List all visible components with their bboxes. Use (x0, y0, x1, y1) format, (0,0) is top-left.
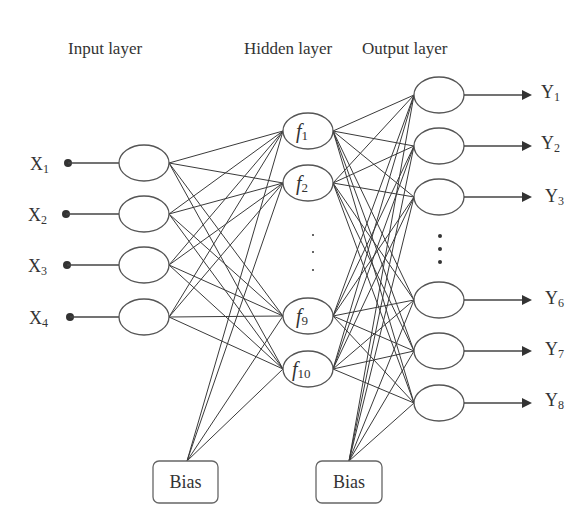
output-bias-node: Bias (316, 461, 382, 503)
output-label-2: Y2 (541, 133, 560, 155)
output-neuron-6 (414, 282, 464, 318)
hidden-bias-node: Bias (153, 461, 218, 503)
output-node-2: Y2 (414, 128, 560, 164)
output-node-3: Y3 (414, 179, 564, 215)
ellipsis-dot-icon (312, 251, 314, 253)
output-label-8: Y8 (545, 390, 564, 412)
output-neuron-8 (414, 385, 464, 421)
arrow-right-icon (522, 398, 532, 408)
input-neuron-4 (119, 299, 169, 335)
hidden-output-edges (333, 95, 414, 403)
hidden-layer: f1 f2 f9 f10 (283, 113, 333, 387)
input-node-3: X3 (28, 247, 169, 283)
input-node-2: X2 (28, 196, 169, 232)
input-node-1: X1 (30, 145, 169, 181)
ellipsis-dot-icon (438, 234, 442, 238)
output-node-1: Y1 (414, 77, 560, 113)
output-layer-title: Output layer (362, 39, 448, 58)
input-neuron-1 (119, 145, 169, 181)
input-label-2: X2 (28, 205, 47, 227)
output-label-3: Y3 (545, 186, 564, 208)
output-layer: Y1 Y2 Y3 Y6 Y7 (414, 77, 564, 421)
arrow-right-icon (522, 346, 532, 356)
input-hidden-edges (169, 131, 283, 369)
output-neuron-1 (414, 77, 464, 113)
ellipsis-dot-icon (312, 269, 314, 271)
input-neuron-2 (119, 196, 169, 232)
input-label-1: X1 (30, 154, 49, 176)
output-node-8: Y8 (414, 385, 564, 421)
input-node-4: X4 (29, 299, 169, 335)
hidden-node-9: f9 (283, 298, 333, 334)
input-label-4: X4 (29, 308, 48, 330)
ellipsis-dot-icon (312, 234, 314, 236)
neural-network-diagram: Input layer Hidden layer Output layer (0, 0, 586, 532)
input-neuron-3 (119, 247, 169, 283)
output-label-6: Y6 (545, 288, 564, 310)
output-node-6: Y6 (414, 282, 564, 318)
hidden-layer-title: Hidden layer (244, 39, 333, 58)
arrow-right-icon (522, 90, 532, 100)
hidden-ellipsis (312, 234, 314, 271)
output-neuron-7 (414, 333, 464, 369)
arrow-right-icon (522, 141, 532, 151)
ellipsis-dot-icon (438, 247, 442, 251)
ellipsis-dot-icon (438, 260, 442, 264)
arrow-right-icon (522, 192, 532, 202)
output-label-1: Y1 (541, 82, 560, 104)
bias-label: Bias (333, 472, 365, 492)
output-label-7: Y7 (545, 339, 564, 361)
output-ellipsis (438, 234, 442, 264)
output-node-7: Y7 (414, 333, 564, 369)
output-neuron-3 (414, 179, 464, 215)
input-label-3: X3 (28, 256, 47, 278)
input-layer: X1 X2 X3 X4 (28, 145, 169, 335)
hidden-node-1: f1 (283, 113, 333, 149)
arrow-right-icon (522, 295, 532, 305)
output-neuron-2 (414, 128, 464, 164)
bias-label: Bias (169, 472, 201, 492)
input-layer-title: Input layer (68, 39, 142, 58)
hidden-node-2: f2 (283, 165, 333, 201)
hidden-node-10: f10 (283, 351, 333, 387)
